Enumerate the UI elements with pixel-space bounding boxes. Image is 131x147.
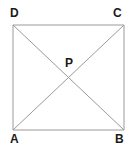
intersection-label-p: P [65, 57, 73, 69]
figure-background [0, 0, 131, 147]
vertex-label-d: D [10, 7, 19, 19]
geometry-figure: D C A B P [0, 0, 131, 147]
square-diagram-svg [0, 0, 131, 147]
vertex-label-b: B [115, 133, 124, 145]
vertex-label-c: C [113, 7, 122, 19]
vertex-label-a: A [10, 133, 19, 145]
